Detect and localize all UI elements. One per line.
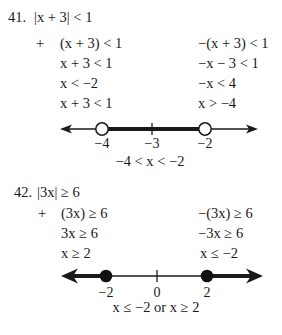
right-step-1: −(x + 3) < 1 [198, 35, 268, 51]
number-line-42 [0, 262, 282, 292]
problem-41-statement: |x + 3| < 1 [34, 9, 92, 25]
right-step-3: −x < 4 [198, 75, 236, 91]
tick-label: 2 [204, 286, 211, 300]
right-step-4: x > −4 [198, 95, 236, 111]
right-step-2: −x − 3 < 1 [198, 55, 259, 71]
tick-label: −2 [198, 137, 213, 151]
left-step-2: x + 3 < 1 [60, 55, 113, 71]
left-step-1: (3x) ≥ 6 [61, 205, 108, 221]
left-step-4: x + 3 < 1 [60, 95, 113, 111]
problem-42-number: 42. [14, 184, 32, 200]
problem-42-statement: |3x| ≥ 6 [37, 184, 80, 200]
tick-label: −3 [145, 137, 160, 151]
right-step-2: −3x ≥ 6 [198, 225, 243, 241]
left-step-1: (x + 3) < 1 [60, 35, 122, 51]
tick-label: −4 [95, 137, 110, 151]
open-circle-icon [96, 123, 108, 135]
right-step-1: −(3x) ≥ 6 [198, 205, 253, 221]
closed-circle-icon [201, 270, 214, 283]
solution-41: −4 < x < −2 [116, 153, 185, 169]
left-step-3: x ≥ 2 [61, 245, 91, 261]
open-circle-icon [199, 123, 211, 135]
solution-42: x ≤ −2 or x ≥ 2 [113, 299, 200, 315]
plus-sign: + [38, 205, 46, 221]
left-step-2: 3x ≥ 6 [61, 225, 98, 241]
number-line-41 [0, 115, 282, 145]
tick-label: 0 [154, 286, 161, 300]
closed-circle-icon [100, 270, 113, 283]
tick-label: −2 [99, 286, 114, 300]
right-step-3: x ≤ −2 [200, 245, 238, 261]
left-step-3: x < −2 [60, 75, 98, 91]
problem-41-number: 41. [8, 9, 26, 25]
plus-sign: + [36, 35, 44, 51]
